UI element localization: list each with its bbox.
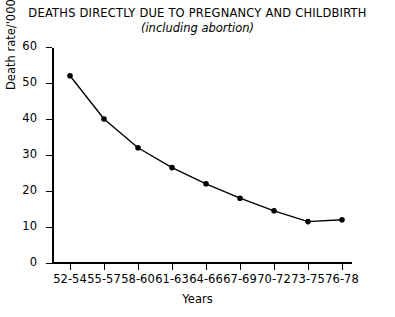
chart-title-block: DEATHS DIRECTLY DUE TO PREGNANCY AND CHI… [0, 6, 395, 36]
plot-area: 0 10 20 30 40 50 60 52-54 55-57 58- [52, 48, 352, 264]
y-tick-label-30: 30 [11, 147, 37, 161]
x-tick-7 [308, 264, 309, 270]
x-tick-8 [342, 264, 343, 270]
y-tick-label-10: 10 [11, 219, 37, 233]
x-tick-6 [274, 264, 275, 270]
y-tick-label-50: 50 [11, 75, 37, 89]
chart-container: DEATHS DIRECTLY DUE TO PREGNANCY AND CHI… [0, 0, 395, 317]
y-tick-label-40: 40 [11, 111, 37, 125]
series-point [67, 73, 73, 79]
series-point [101, 116, 107, 122]
series-point [135, 145, 141, 151]
x-tick-2 [138, 264, 139, 270]
x-tick-5 [240, 264, 241, 270]
x-tick-4 [206, 264, 207, 270]
series-point [169, 165, 175, 171]
series-point [339, 217, 345, 223]
series-point [203, 181, 209, 187]
series-point [237, 195, 243, 201]
y-tick-label-0: 0 [11, 255, 37, 269]
chart-title: DEATHS DIRECTLY DUE TO PREGNANCY AND CHI… [0, 6, 395, 21]
data-series-death-rate [52, 48, 352, 264]
x-tick-1 [104, 264, 105, 270]
x-tick-3 [172, 264, 173, 270]
series-line [70, 76, 342, 222]
chart-subtitle: (including abortion) [0, 21, 395, 36]
x-axis-title: Years [0, 292, 395, 306]
y-tick-label-20: 20 [11, 183, 37, 197]
y-tick-label-60: 60 [11, 39, 37, 53]
x-tick-0 [70, 264, 71, 270]
series-point [271, 208, 277, 214]
series-point [305, 219, 311, 225]
series-points [67, 73, 345, 224]
x-tick-label-8: 76-78 [321, 272, 363, 286]
